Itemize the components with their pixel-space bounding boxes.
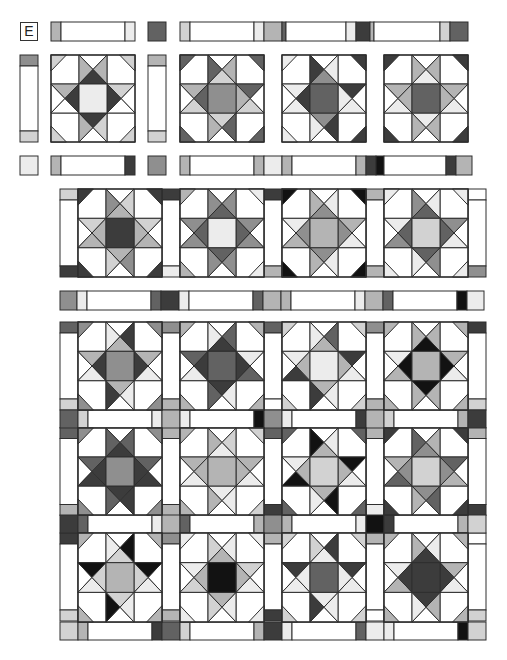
sashing-row-b-segment: [60, 515, 78, 533]
sashing-row-b-segment: [264, 515, 282, 533]
block-bot-2-2-center-square: [208, 457, 236, 486]
mid-sashing-row-segment: [263, 291, 281, 310]
sashing-row-b-segment: [78, 515, 88, 533]
mid-sashing-row-segment: [77, 291, 87, 310]
bottom-section-vertical-sash-segment: [60, 322, 78, 333]
sashing-row-a-segment: [394, 410, 458, 428]
sashing-row-c-segment: [384, 622, 394, 640]
bottom-section-vertical-sash-segment: [366, 610, 384, 621]
bottom-section-vertical-sash-segment: [468, 610, 486, 621]
block-bot-3-1-center-square: [106, 563, 134, 593]
mid-sashing-row-segment: [281, 291, 291, 310]
top-sashing-row-segment: [286, 22, 346, 41]
bottom-section-vertical-sash-segment: [366, 439, 384, 505]
sashing-row-c-segment: [458, 622, 468, 640]
sashing-row-a-segment: [190, 410, 254, 428]
block-bot-2-1-center-square: [106, 457, 134, 486]
block-top-3-center-square: [310, 84, 338, 113]
top-left-cornerstone-strip-segment: [125, 22, 135, 41]
bottom-section-vertical-sash-segment: [60, 439, 78, 505]
sashing-row-a-segment: [162, 410, 180, 428]
bottom-sashing-row-top-segment: [264, 156, 282, 175]
middle-section-vertical-sash-segment: [468, 200, 486, 266]
bottom-sashing-row-top-segment: [356, 156, 366, 175]
block-mid-2-center-square: [208, 218, 236, 247]
middle-section-vertical-sash-segment: [366, 189, 384, 200]
bottom-section-vertical-sash-segment: [162, 333, 180, 399]
mid-sashing-row-segment: [60, 291, 77, 310]
bottom-sashing-row-top-segment: [366, 156, 376, 175]
bottom-section-vertical-sash-segment: [60, 428, 78, 439]
sashing-row-a-segment: [180, 410, 190, 428]
top-sashing-row-segment: [180, 22, 190, 41]
sashing-row-b-segment: [394, 515, 458, 533]
sashing-row-a-segment: [292, 410, 356, 428]
sashing-row-c-segment: [180, 622, 190, 640]
mid-sashing-row-segment: [179, 291, 189, 310]
top-sashing-row-segment: [374, 22, 440, 41]
bottom-section-vertical-sash-segment: [468, 533, 486, 544]
sashing-row-c-segment: [88, 622, 152, 640]
sashing-row-a-segment: [282, 410, 292, 428]
sashing-row-b-segment: [152, 515, 162, 533]
bottom-strip-1-segment: [125, 156, 135, 175]
top-sashing-row-segment: [282, 22, 286, 41]
bottom-sashing-row-top-segment: [180, 156, 190, 175]
sashing-row-b-segment: [292, 515, 356, 533]
sashing-row-a-segment: [468, 410, 486, 428]
sashing-row-c-segment: [60, 622, 78, 640]
sashing-row-a-segment: [458, 410, 468, 428]
sashing-row-c-segment: [292, 622, 356, 640]
top-sashing-row-segment: [450, 22, 468, 41]
bottom-section-vertical-sash-segment: [162, 610, 180, 621]
bottom-section-vertical-sash-segment: [366, 544, 384, 610]
quilt-diagram: [0, 0, 507, 660]
bottom-section-vertical-sash-segment: [264, 505, 282, 516]
sashing-row-b-segment: [162, 515, 180, 533]
bottom-sashing-row-top-segment: [446, 156, 456, 175]
mid-sash-1-segment: [148, 55, 166, 66]
sashing-row-a-segment: [356, 410, 366, 428]
block-bot-2-3-center-square: [310, 457, 338, 486]
sashing-row-b-segment: [180, 515, 190, 533]
mid-sashing-row-segment: [393, 291, 457, 310]
sashing-row-b-segment: [254, 515, 264, 533]
mid-sashing-row-segment: [253, 291, 263, 310]
sashing-row-b-segment: [468, 515, 486, 533]
sashing-row-c-segment: [282, 622, 292, 640]
block-top-1-center-square: [79, 84, 107, 113]
bottom-section-vertical-sash-segment: [468, 333, 486, 399]
mid-sashing-row-segment: [457, 291, 467, 310]
top-left-cornerstone-strip-segment: [51, 22, 61, 41]
middle-section-vertical-sash-segment: [264, 200, 282, 266]
middle-section-vertical-sash-segment: [162, 266, 180, 277]
left-sash-1-segment: [20, 55, 38, 66]
bottom-section-vertical-sash-segment: [264, 544, 282, 610]
bottom-section-vertical-sash-segment: [264, 399, 282, 410]
bottom-section-vertical-sash-segment: [264, 533, 282, 544]
bottom-cornerstone-2-segment: [148, 156, 166, 175]
middle-section-vertical-sash-segment: [60, 266, 78, 277]
bottom-section-vertical-sash-segment: [60, 333, 78, 399]
mid-sashing-row-segment: [365, 291, 383, 310]
bottom-section-vertical-sash-segment: [468, 428, 486, 439]
sashing-row-c-segment: [356, 622, 366, 640]
bottom-section-vertical-sash-segment: [162, 439, 180, 505]
bottom-sashing-row-top-segment: [376, 156, 384, 175]
block-top-4-center-square: [412, 84, 440, 113]
sashing-row-b-segment: [190, 515, 254, 533]
sashing-row-b-segment: [282, 515, 292, 533]
block-bot-1-4-center-square: [412, 351, 440, 380]
block-bot-3-3-center-square: [310, 563, 338, 593]
bottom-section-vertical-sash-segment: [366, 399, 384, 410]
top-sashing-row-segment: [370, 22, 374, 41]
middle-section-vertical-sash-segment: [162, 189, 180, 200]
block-bot-3-4-center-square: [412, 563, 440, 593]
mid-sashing-row-segment: [189, 291, 253, 310]
block-mid-1-center-square: [106, 218, 134, 247]
sashing-row-c-segment: [152, 622, 162, 640]
bottom-section-vertical-sash-segment: [366, 428, 384, 439]
bottom-strip-1-segment: [61, 156, 125, 175]
bottom-section-vertical-sash-segment: [264, 333, 282, 399]
bottom-section-vertical-sash-segment: [60, 533, 78, 544]
